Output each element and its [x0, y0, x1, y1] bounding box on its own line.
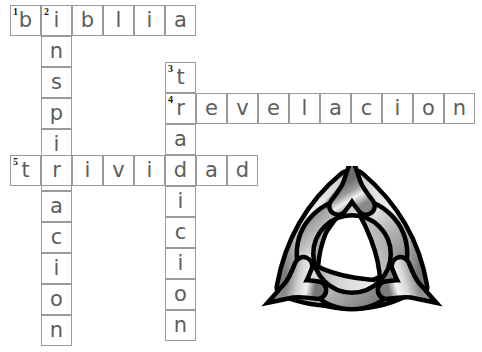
crossword-cell[interactable]: a: [196, 155, 227, 186]
clue-number: 5: [13, 156, 18, 167]
cell-letter: e: [259, 94, 288, 123]
crossword-cell[interactable]: n: [41, 36, 72, 67]
cell-letter: o: [166, 280, 195, 309]
crossword-cell[interactable]: i: [165, 248, 196, 279]
cell-letter: i: [42, 254, 71, 283]
cell-letter: d: [166, 156, 195, 185]
clue-number: 1: [13, 6, 18, 17]
cell-letter: a: [197, 156, 226, 185]
cell-letter: c: [352, 94, 381, 123]
crossword-cell[interactable]: v: [103, 155, 134, 186]
crossword-cell[interactable]: o: [41, 284, 72, 315]
crossword-cell[interactable]: t3: [165, 62, 196, 93]
crossword-cell[interactable]: c: [41, 222, 72, 253]
cell-letter: p: [42, 99, 71, 128]
crossword-cell[interactable]: l: [289, 93, 320, 124]
crossword-cell[interactable]: c: [351, 93, 382, 124]
cell-letter: b: [73, 6, 102, 35]
cell-letter: a: [321, 94, 350, 123]
cell-letter: v: [228, 94, 257, 123]
crossword-cell[interactable]: t5: [10, 155, 41, 186]
crossword-cell[interactable]: s: [41, 67, 72, 98]
cell-letter: i: [383, 94, 412, 123]
cell-letter: l: [104, 6, 133, 35]
crossword-cell[interactable]: i: [134, 5, 165, 36]
crossword-page: b1i2blianspiraciont3r4adicionevelaciont5…: [0, 0, 482, 352]
cell-letter: n: [42, 37, 71, 66]
cell-letter: o: [414, 94, 443, 123]
crossword-cell[interactable]: e: [258, 93, 289, 124]
clue-number: 2: [44, 6, 49, 17]
cell-letter: c: [42, 223, 71, 252]
cell-letter: a: [166, 125, 195, 154]
crossword-cell[interactable]: e: [196, 93, 227, 124]
cell-letter: i: [166, 249, 195, 278]
crossword-cell[interactable]: r4: [165, 93, 196, 124]
crossword-cell[interactable]: o: [413, 93, 444, 124]
cell-letter: l: [290, 94, 319, 123]
clue-number: 4: [168, 94, 173, 105]
crossword-cell[interactable]: l: [103, 5, 134, 36]
crossword-cell[interactable]: b: [72, 5, 103, 36]
cell-letter: i: [166, 187, 195, 216]
cell-letter: e: [197, 94, 226, 123]
crossword-cell[interactable]: i2: [41, 5, 72, 36]
crossword-cell[interactable]: a: [41, 191, 72, 222]
crossword-cell[interactable]: v: [227, 93, 258, 124]
cell-letter: s: [42, 68, 71, 97]
cell-letter: a: [166, 6, 195, 35]
cell-letter: n: [42, 316, 71, 345]
cell-letter: o: [42, 285, 71, 314]
crossword-cell[interactable]: p: [41, 98, 72, 129]
crossword-cell[interactable]: n: [444, 93, 475, 124]
crossword-cell[interactable]: i: [41, 253, 72, 284]
cell-letter: v: [104, 156, 133, 185]
cell-letter: c: [166, 218, 195, 247]
cell-letter: a: [42, 192, 71, 221]
crossword-cell[interactable]: i: [134, 155, 165, 186]
crossword-cell[interactable]: i: [72, 155, 103, 186]
crossword-cell[interactable]: d: [165, 155, 196, 186]
crossword-cell[interactable]: a: [165, 124, 196, 155]
crossword-cell[interactable]: i: [382, 93, 413, 124]
clue-number: 3: [168, 63, 173, 74]
crossword-cell[interactable]: o: [165, 279, 196, 310]
crossword-cell[interactable]: n: [41, 315, 72, 346]
cell-letter: i: [135, 156, 164, 185]
crossword-cell[interactable]: d: [227, 155, 258, 186]
cell-letter: r: [42, 156, 71, 185]
cell-letter: d: [228, 156, 257, 185]
cell-letter: i: [73, 156, 102, 185]
crossword-cell[interactable]: b1: [10, 5, 41, 36]
crossword-cell[interactable]: c: [165, 217, 196, 248]
cell-letter: n: [445, 94, 474, 123]
crossword-cell[interactable]: i: [165, 186, 196, 217]
triquetra-symbol: [258, 166, 446, 326]
crossword-cell[interactable]: a: [320, 93, 351, 124]
cell-letter: i: [135, 6, 164, 35]
cell-letter: n: [166, 311, 195, 340]
crossword-cell[interactable]: a: [165, 5, 196, 36]
crossword-cell[interactable]: n: [165, 310, 196, 341]
crossword-cell[interactable]: r: [41, 155, 72, 186]
